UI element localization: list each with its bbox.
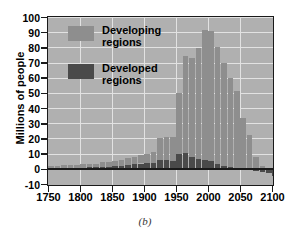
bar-segment-developing bbox=[125, 158, 131, 165]
x-tick-label: 1850 bbox=[100, 191, 124, 203]
bar-segment-developing bbox=[196, 48, 202, 159]
y-tick-label: 40 bbox=[2, 104, 40, 114]
bar-segment-developing bbox=[183, 56, 189, 152]
bar-column bbox=[183, 17, 189, 185]
x-tick-label: 2100 bbox=[260, 191, 284, 203]
bar-segment-developing bbox=[176, 93, 182, 154]
legend-label-developed-line2: regions bbox=[102, 75, 158, 87]
y-tick-mark bbox=[41, 77, 47, 79]
bar-segment-developing bbox=[112, 161, 118, 166]
plot-area: Developing regions Developed regions bbox=[47, 16, 274, 186]
legend-label-developing-line1: Developing bbox=[102, 25, 161, 37]
y-tick-label: 90 bbox=[2, 28, 40, 38]
legend-item-developed: Developed regions bbox=[68, 63, 158, 86]
x-tick-label: 2000 bbox=[196, 191, 220, 203]
y-tick-mark bbox=[41, 47, 47, 49]
y-tick-label: 100 bbox=[2, 13, 40, 23]
y-tick-mark bbox=[41, 32, 47, 34]
y-axis-labels: 1009080706050403020100-10 bbox=[0, 0, 40, 241]
y-tick-mark bbox=[41, 93, 47, 95]
bar-column bbox=[247, 17, 253, 185]
bar-column bbox=[170, 17, 176, 185]
bar-column bbox=[196, 17, 202, 185]
y-tick-mark bbox=[41, 17, 47, 19]
bar-segment-developing bbox=[253, 157, 259, 169]
y-tick-label: 0 bbox=[2, 164, 40, 174]
bar-column bbox=[176, 17, 182, 185]
legend-swatch-developed-icon bbox=[68, 64, 94, 79]
bar-segment-developing bbox=[170, 137, 176, 161]
bar-segment-developing bbox=[132, 157, 138, 165]
bar-column bbox=[164, 17, 170, 185]
bar-column bbox=[189, 17, 195, 185]
bar-segment-developing bbox=[215, 47, 221, 164]
x-tick-label: 2050 bbox=[228, 191, 252, 203]
bar-column bbox=[240, 17, 246, 185]
bar-column bbox=[228, 17, 234, 185]
y-tick-mark bbox=[41, 169, 47, 171]
bar-column bbox=[48, 17, 54, 185]
bar-segment-developing bbox=[144, 154, 150, 163]
bar-column bbox=[55, 17, 61, 185]
bar-segment-developing bbox=[189, 58, 195, 157]
legend-label-developing-line2: regions bbox=[102, 37, 161, 49]
y-tick-label: 70 bbox=[2, 58, 40, 68]
y-tick-label: 20 bbox=[2, 134, 40, 144]
bar-segment-developing bbox=[157, 138, 163, 160]
y-tick-label: 60 bbox=[2, 73, 40, 83]
legend-label-developing: Developing regions bbox=[102, 25, 161, 48]
x-tick-label: 1900 bbox=[132, 191, 156, 203]
bar-column bbox=[266, 17, 272, 185]
bar-segment-developed-negative bbox=[272, 169, 274, 176]
bar-column bbox=[260, 17, 266, 185]
bar-segment-developing bbox=[228, 78, 234, 168]
figure-panel-b: Millions of people 100908070605040302010… bbox=[0, 0, 290, 241]
bar-segment-developing bbox=[164, 137, 170, 161]
bar-column bbox=[215, 17, 221, 185]
legend-swatch-developing-icon bbox=[68, 26, 94, 41]
bar-column bbox=[202, 17, 208, 185]
bar-segment-developed bbox=[183, 153, 189, 169]
bar-segment-developing bbox=[221, 63, 227, 166]
bar-segment-developing bbox=[119, 160, 125, 166]
bar-column bbox=[221, 17, 227, 185]
bar-column bbox=[272, 17, 274, 185]
bar-segment-developed bbox=[189, 157, 195, 169]
x-tick-label: 1750 bbox=[36, 191, 60, 203]
y-tick-label: 50 bbox=[2, 88, 40, 98]
y-tick-mark bbox=[41, 108, 47, 110]
y-tick-mark bbox=[41, 184, 47, 186]
bar-segment-developing bbox=[247, 135, 253, 168]
bar-segment-developing bbox=[208, 31, 214, 162]
panel-label: (b) bbox=[0, 215, 290, 227]
legend-label-developed: Developed regions bbox=[102, 63, 158, 86]
bar-segment-developing bbox=[151, 152, 157, 163]
legend-item-developing: Developing regions bbox=[68, 25, 161, 48]
bar-segment-developing bbox=[138, 155, 144, 163]
y-tick-label: 30 bbox=[2, 119, 40, 129]
bar-column bbox=[234, 17, 240, 185]
bar-segment-developing bbox=[106, 162, 112, 167]
y-tick-mark bbox=[41, 138, 47, 140]
x-tick-label: 1800 bbox=[68, 191, 92, 203]
bar-segment-developing bbox=[234, 91, 240, 168]
y-tick-mark bbox=[41, 123, 47, 125]
legend-label-developed-line1: Developed bbox=[102, 63, 158, 75]
y-tick-label: 80 bbox=[2, 43, 40, 53]
y-tick-label: 10 bbox=[2, 149, 40, 159]
bar-segment-developing bbox=[87, 164, 93, 167]
bar-column bbox=[208, 17, 214, 185]
y-tick-mark bbox=[41, 153, 47, 155]
bar-segment-developing bbox=[240, 118, 246, 169]
bar-column bbox=[61, 17, 67, 185]
y-tick-label: -10 bbox=[2, 180, 40, 190]
bar-column bbox=[253, 17, 259, 185]
bar-segment-developing bbox=[93, 164, 99, 168]
bar-segment-developing bbox=[202, 30, 208, 161]
bar-segment-developed bbox=[176, 154, 182, 169]
bar-segment-developing bbox=[100, 162, 106, 167]
x-tick-label: 1950 bbox=[164, 191, 188, 203]
zero-baseline bbox=[48, 168, 273, 170]
y-tick-mark bbox=[41, 62, 47, 64]
